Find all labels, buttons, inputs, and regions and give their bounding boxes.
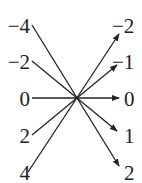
right-label-2: −1 xyxy=(112,52,134,73)
right-label-3: 0 xyxy=(124,89,135,110)
left-label-2: −2 xyxy=(0,52,30,73)
left-label-5: 4 xyxy=(0,163,30,183)
right-label-1: −2 xyxy=(112,16,134,37)
left-label-3: 0 xyxy=(0,89,30,110)
right-label-4: 1 xyxy=(124,126,135,147)
arrow-2-to-neg1 xyxy=(32,65,117,135)
arrow-4-to-neg2 xyxy=(28,34,119,172)
left-label-1: −4 xyxy=(0,16,30,37)
arrow-neg4-to-2 xyxy=(32,25,119,166)
mapping-diagram: −4 −2 0 2 4 −2 −1 0 1 2 xyxy=(0,0,142,183)
left-label-4: 2 xyxy=(0,126,30,147)
right-label-5: 2 xyxy=(124,163,135,183)
arrow-neg2-to-1 xyxy=(32,61,117,131)
